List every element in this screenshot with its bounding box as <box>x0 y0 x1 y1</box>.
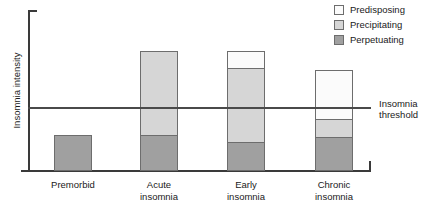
bar-chronic-insomnia <box>315 70 353 171</box>
bar-segment-precipitating <box>227 68 265 143</box>
legend-swatch-predisposing-icon <box>334 5 344 15</box>
legend: Predisposing Precipitating Perpetuating <box>334 2 405 47</box>
bar-segment-perpetuating <box>227 142 265 171</box>
bar-early-insomnia <box>227 51 265 171</box>
legend-item-predisposing: Predisposing <box>334 2 405 17</box>
bar-segment-perpetuating <box>140 135 178 171</box>
bar-segment-predisposing <box>227 51 265 69</box>
bar-segment-precipitating <box>315 119 353 138</box>
bar-segment-precipitating <box>140 51 178 136</box>
insomnia-threshold-label: Insomnia threshold <box>379 98 431 120</box>
y-axis-top-tick <box>28 10 37 12</box>
bar-segment-predisposing <box>315 70 353 120</box>
y-axis-title: Insomnia intensity <box>11 26 22 156</box>
legend-swatch-perpetuating-icon <box>334 35 344 45</box>
bar-segment-perpetuating <box>54 135 92 171</box>
legend-item-perpetuating: Perpetuating <box>334 32 405 47</box>
legend-swatch-precipitating-icon <box>334 20 344 30</box>
x-axis-label-chronic-insomnia: Chronic insomnia <box>288 179 380 202</box>
x-axis-label-premorbid: Premorbid <box>27 179 119 191</box>
x-axis-label-acute-insomnia: Acute insomnia <box>113 179 205 202</box>
legend-item-precipitating: Precipitating <box>334 17 405 32</box>
legend-label-precipitating: Precipitating <box>350 19 402 30</box>
x-axis-label-early-insomnia: Early insomnia <box>200 179 292 202</box>
insomnia-threshold-line <box>28 107 371 109</box>
y-axis <box>28 10 30 171</box>
bar-segment-perpetuating <box>315 137 353 171</box>
bar-acute-insomnia <box>140 51 178 171</box>
bar-premorbid <box>54 135 92 171</box>
legend-label-perpetuating: Perpetuating <box>350 34 404 45</box>
insomnia-3p-model-chart: Insomnia intensity Insomnia threshold Pr… <box>0 0 431 217</box>
x-axis-end-tick <box>369 161 371 172</box>
legend-label-predisposing: Predisposing <box>350 4 405 15</box>
